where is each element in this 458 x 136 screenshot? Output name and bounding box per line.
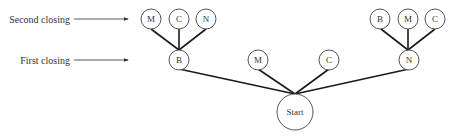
svg-text:B: B (176, 55, 182, 65)
tree-edges (151, 29, 435, 94)
svg-text:N: N (203, 14, 210, 24)
svg-text:B: B (377, 14, 383, 24)
node-first-c: C (319, 50, 339, 70)
node-n-second-m: M (398, 9, 418, 29)
node-first-n: N (399, 50, 419, 70)
first-closing-label: First closing (20, 55, 70, 66)
svg-text:C: C (432, 14, 438, 24)
node-start: Start (277, 94, 313, 130)
node-b-second-m: M (141, 9, 161, 29)
node-b-second-c: C (169, 9, 189, 29)
node-n-second-c: C (425, 9, 445, 29)
svg-text:M: M (404, 14, 412, 24)
svg-text:N: N (406, 55, 413, 65)
node-first-m: M (248, 50, 268, 70)
svg-text:C: C (176, 14, 182, 24)
node-n-second-b: B (370, 9, 390, 29)
svg-text:Start: Start (287, 107, 304, 117)
decision-tree-diagram: Second closing First closing M C N B M C… (0, 0, 458, 136)
svg-text:C: C (326, 55, 332, 65)
svg-text:M: M (254, 55, 262, 65)
node-first-b: B (169, 50, 189, 70)
node-b-second-n: N (196, 9, 216, 29)
second-closing-label: Second closing (9, 14, 70, 25)
svg-text:M: M (147, 14, 155, 24)
